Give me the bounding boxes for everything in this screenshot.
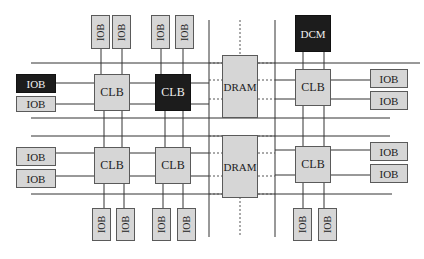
dram-label: DRAM (223, 81, 256, 93)
dcm-label: DCM (300, 28, 325, 40)
iob-bottom-6: IOB (318, 208, 337, 241)
clb-label: CLB (161, 158, 184, 173)
clb-label: CLB (100, 85, 123, 100)
clb-2: CLB (155, 74, 191, 111)
iob-left-3: IOB (16, 147, 56, 166)
iob-label: IOB (181, 216, 192, 233)
clb-1: CLB (94, 74, 130, 111)
iob-label: IOB (380, 73, 399, 85)
iob-bottom-1: IOB (92, 208, 111, 241)
iob-left-1: IOB (16, 74, 56, 93)
iob-label: IOB (120, 216, 131, 233)
iob-top-2: IOB (112, 15, 131, 49)
iob-right-2: IOB (370, 91, 408, 110)
iob-label: IOB (27, 78, 46, 90)
iob-bottom-3: IOB (152, 208, 171, 241)
iob-label: IOB (27, 151, 46, 163)
iob-right-3: IOB (370, 142, 408, 161)
clb-label: CLB (301, 157, 324, 172)
iob-right-1: IOB (370, 69, 408, 88)
iob-label: IOB (297, 216, 308, 233)
iob-label: IOB (27, 98, 46, 110)
clb-3: CLB (295, 69, 331, 106)
iob-bottom-5: IOB (293, 208, 312, 241)
iob-label: IOB (95, 23, 106, 40)
iob-label: IOB (156, 216, 167, 233)
iob-label: IOB (322, 216, 333, 233)
clb-4: CLB (94, 147, 130, 184)
iob-bottom-4: IOB (177, 208, 196, 241)
iob-label: IOB (380, 95, 399, 107)
iob-right-4: IOB (370, 164, 408, 183)
fpga-diagram: IOB IOB IOB IOB DCM IOB IOB IOB IOB CLB … (0, 0, 424, 259)
iob-top-1: IOB (91, 15, 110, 49)
clb-5: CLB (155, 147, 191, 184)
clb-label: CLB (100, 158, 123, 173)
dram-1: DRAM (222, 55, 258, 118)
iob-label: IOB (116, 23, 127, 40)
dram-label: DRAM (223, 161, 256, 173)
clb-label: CLB (301, 80, 324, 95)
dcm-block: DCM (295, 15, 331, 52)
iob-label: IOB (27, 173, 46, 185)
iob-label: IOB (179, 23, 190, 40)
iob-left-2: IOB (16, 96, 56, 112)
clb-6: CLB (295, 146, 331, 183)
iob-label: IOB (380, 146, 399, 158)
iob-label: IOB (380, 168, 399, 180)
iob-top-3: IOB (151, 15, 170, 49)
iob-bottom-2: IOB (116, 208, 135, 241)
dram-2: DRAM (222, 135, 258, 198)
iob-label: IOB (155, 23, 166, 40)
iob-top-4: IOB (175, 15, 194, 49)
iob-label: IOB (96, 216, 107, 233)
clb-label: CLB (161, 85, 184, 100)
routing-lines (0, 0, 424, 259)
iob-left-4: IOB (16, 169, 56, 188)
